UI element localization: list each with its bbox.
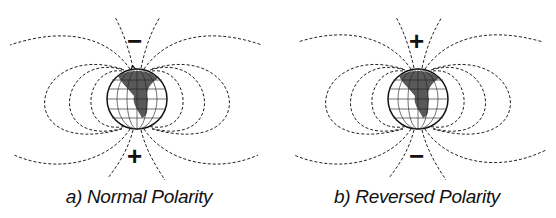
globe-icon (388, 69, 448, 129)
caption-normal-polarity: a) Normal Polarity (0, 186, 278, 208)
globe-icon (107, 69, 167, 129)
negative-pole-sign: − (409, 143, 424, 169)
panel-reversed-polarity: + − b) Reversed Polarity (278, 0, 556, 218)
panel-normal-polarity: − + a) Normal Polarity (0, 0, 278, 218)
caption-reversed-polarity: b) Reversed Polarity (278, 186, 556, 208)
positive-pole-sign: + (127, 143, 142, 169)
negative-pole-sign: − (127, 28, 142, 54)
positive-pole-sign: + (409, 28, 424, 54)
